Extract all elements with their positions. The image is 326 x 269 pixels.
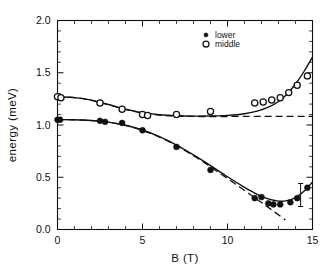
- x-tick-label: 0: [55, 234, 61, 246]
- x-axis-tick-labels: 051015: [55, 234, 319, 246]
- y-tick-label: 0.0: [36, 223, 51, 235]
- data-point-middle: [277, 95, 283, 101]
- data-point-lower: [140, 127, 146, 133]
- data-point-middle: [173, 111, 179, 117]
- energy-vs-magnetic-field-chart: 0.00.51.01.52.0 051015 energy (meV) B (T…: [0, 0, 326, 269]
- y-tick-label: 1.5: [36, 66, 51, 78]
- data-point-middle: [286, 90, 292, 96]
- plot-frame: [58, 21, 313, 230]
- data-point-middle: [260, 99, 266, 105]
- x-tick-label: 5: [140, 234, 146, 246]
- fit-curves-layer: [58, 57, 313, 220]
- data-point-lower: [271, 202, 277, 208]
- y-tick-label: 2.0: [36, 14, 51, 26]
- data-point-lower: [265, 200, 271, 206]
- y-axis-minor-ticks: [58, 31, 313, 219]
- data-point-middle: [97, 100, 103, 106]
- x-axis-major-ticks: [58, 21, 313, 230]
- y-axis-title: energy (meV): [6, 88, 18, 162]
- data-point-lower: [305, 185, 311, 191]
- data-point-middle: [294, 82, 300, 88]
- legend: lowermiddle: [203, 30, 240, 49]
- data-point-lower: [259, 194, 265, 200]
- data-point-lower: [174, 144, 180, 150]
- x-axis-title: B (T): [171, 252, 199, 264]
- y-axis-major-ticks: [58, 21, 313, 230]
- fit-curve-middle-fit: [58, 57, 313, 116]
- data-point-lower: [252, 195, 258, 201]
- fit-curve-lower-asymptote: [58, 120, 286, 220]
- data-point-lower: [57, 117, 63, 123]
- data-point-middle: [304, 73, 310, 79]
- data-point-middle: [119, 106, 125, 112]
- data-point-middle: [58, 95, 64, 101]
- y-tick-label: 1.0: [36, 119, 51, 131]
- x-tick-label: 10: [222, 234, 234, 246]
- x-tick-label: 15: [307, 234, 319, 246]
- data-point-lower: [294, 195, 300, 201]
- data-points-layer: [54, 73, 310, 208]
- data-point-middle: [145, 112, 151, 118]
- data-point-lower: [119, 120, 125, 126]
- data-point-lower: [208, 167, 214, 173]
- legend-label-middle: middle: [215, 39, 240, 49]
- figure-panel: 0.00.51.01.52.0 051015 energy (meV) B (T…: [0, 0, 326, 269]
- data-point-lower: [97, 118, 103, 124]
- data-point-lower: [277, 202, 283, 208]
- axes-frame: [58, 21, 313, 230]
- y-tick-label: 0.5: [36, 171, 51, 183]
- legend-marker-lower: [204, 33, 208, 37]
- data-point-middle: [269, 97, 275, 103]
- fit-curve-lower-fit: [58, 120, 313, 202]
- data-point-lower: [288, 199, 294, 205]
- data-point-middle: [252, 100, 258, 106]
- y-axis-tick-labels: 0.00.51.01.52.0: [36, 14, 51, 235]
- data-point-lower: [102, 119, 108, 125]
- legend-marker-middle: [203, 41, 209, 47]
- data-point-middle: [207, 108, 213, 114]
